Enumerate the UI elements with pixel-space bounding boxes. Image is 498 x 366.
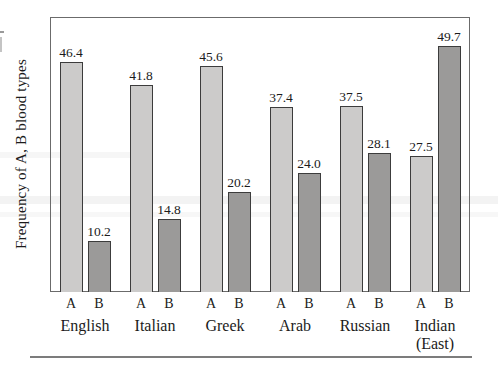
- bar-pair: 45.620.2: [200, 17, 251, 292]
- bar-B-english: [88, 241, 111, 292]
- bar-groups: 46.410.2ABEnglish41.814.8ABItalian45.620…: [50, 17, 470, 354]
- bar-value-label: 20.2: [227, 176, 251, 190]
- bar-group-italian: 41.814.8ABItalian: [120, 17, 190, 354]
- bar-tick-row: AB: [340, 297, 391, 311]
- bar-value-label: 46.4: [59, 46, 83, 60]
- bar-A-arab: [270, 107, 293, 292]
- bar-tick-row: AB: [130, 297, 181, 311]
- bar-B-greek: [228, 192, 251, 292]
- bar-value-label: 10.2: [87, 225, 111, 239]
- bar-value-label: 27.5: [409, 140, 433, 154]
- bottom-rule: [30, 356, 472, 358]
- category-label: Greek: [205, 317, 244, 335]
- bar-pair: 46.410.2: [60, 17, 111, 292]
- blood-type-bar-chart-figure: Frequency of A, B blood types 46.410.2AB…: [0, 0, 498, 366]
- category-sublabel: (East): [416, 335, 454, 353]
- bar-tick-label: B: [298, 297, 321, 311]
- bar-slot: 41.8: [130, 69, 153, 293]
- bar-value-label: 37.5: [339, 90, 363, 104]
- bar-tick-row: AB: [60, 297, 111, 311]
- bar-slot: 28.1: [368, 137, 391, 293]
- bar-B-indian: [438, 46, 461, 292]
- bar-A-english: [60, 62, 83, 292]
- bar-slot: 20.2: [228, 176, 251, 293]
- bar-tick-row: AB: [410, 297, 461, 311]
- bar-B-russian: [368, 153, 391, 292]
- bar-value-label: 37.4: [269, 91, 293, 105]
- bar-pair: 41.814.8: [130, 17, 181, 292]
- bar-slot: 37.4: [270, 91, 293, 293]
- bar-group-russian: 37.528.1ABRussian: [330, 17, 400, 354]
- bar-pair: 37.424.0: [270, 17, 321, 292]
- bar-tick-label: A: [270, 297, 293, 311]
- bar-tick-label: A: [410, 297, 433, 311]
- bar-A-indian: [410, 156, 433, 292]
- bar-value-label: 41.8: [129, 69, 153, 83]
- bar-pair: 37.528.1: [340, 17, 391, 292]
- bar-value-label: 24.0: [297, 157, 321, 171]
- bar-slot: 27.5: [410, 140, 433, 293]
- bar-tick-label: A: [60, 297, 83, 311]
- bar-A-greek: [200, 66, 223, 292]
- bar-slot: 45.6: [200, 50, 223, 293]
- bar-B-italian: [158, 219, 181, 292]
- bar-slot: 10.2: [88, 225, 111, 293]
- bar-A-russian: [340, 106, 363, 292]
- category-label: English: [61, 317, 110, 335]
- bar-B-arab: [298, 173, 321, 292]
- bar-tick-label: B: [158, 297, 181, 311]
- bar-tick-label: B: [88, 297, 111, 311]
- bar-group-greek: 45.620.2ABGreek: [190, 17, 260, 354]
- category-label: Italian: [135, 317, 176, 335]
- bar-group-indian: 27.549.7ABIndian(East): [400, 17, 470, 354]
- bar-tick-row: AB: [270, 297, 321, 311]
- category-label: Indian: [415, 317, 456, 335]
- bar-tick-label: B: [368, 297, 391, 311]
- bar-value-label: 49.7: [437, 30, 461, 44]
- bar-slot: 14.8: [158, 203, 181, 293]
- bar-value-label: 28.1: [367, 137, 391, 151]
- bar-value-label: 14.8: [157, 203, 181, 217]
- bar-value-label: 45.6: [199, 50, 223, 64]
- bar-slot: 46.4: [60, 46, 83, 293]
- bar-pair: 27.549.7: [410, 17, 461, 292]
- bar-tick-label: B: [228, 297, 251, 311]
- bar-tick-label: A: [340, 297, 363, 311]
- bar-tick-label: A: [200, 297, 223, 311]
- bar-tick-label: B: [438, 297, 461, 311]
- bar-slot: 37.5: [340, 90, 363, 293]
- bar-group-english: 46.410.2ABEnglish: [50, 17, 120, 354]
- bar-A-italian: [130, 85, 153, 292]
- bar-tick-label: A: [130, 297, 153, 311]
- category-label: Russian: [340, 317, 391, 335]
- bar-group-arab: 37.424.0ABArab: [260, 17, 330, 354]
- page-edge-artifact: [0, 30, 5, 54]
- bar-tick-row: AB: [200, 297, 251, 311]
- y-axis-label: Frequency of A, B blood types: [13, 59, 30, 249]
- bar-slot: 24.0: [298, 157, 321, 293]
- category-label: Arab: [279, 317, 311, 335]
- bar-slot: 49.7: [438, 30, 461, 293]
